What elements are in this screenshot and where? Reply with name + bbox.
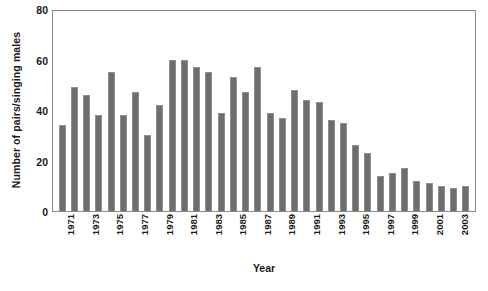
bar-series — [53, 11, 475, 211]
bar[interactable] — [156, 105, 163, 211]
bar-slot — [374, 11, 386, 211]
bar[interactable] — [218, 113, 225, 211]
bar-slot — [56, 11, 68, 211]
y-tick-label: 0 — [18, 206, 48, 218]
x-tick-slot — [166, 212, 178, 260]
bar-slot — [105, 11, 117, 211]
bar[interactable] — [108, 72, 115, 211]
bar-slot — [215, 11, 227, 211]
bar-slot — [435, 11, 447, 211]
x-tick-slot: 2001 — [424, 212, 436, 260]
bar-slot — [301, 11, 313, 211]
x-tick-slot: 1997 — [375, 212, 387, 260]
bar-slot — [117, 11, 129, 211]
bar[interactable] — [132, 92, 139, 211]
bar[interactable] — [389, 173, 396, 211]
y-axis-tick-labels: 020406080 — [18, 0, 48, 291]
bar[interactable] — [426, 183, 433, 211]
bar-slot — [142, 11, 154, 211]
bar[interactable] — [254, 67, 261, 211]
x-tick-slot — [116, 212, 128, 260]
bar[interactable] — [181, 60, 188, 212]
bar-slot — [68, 11, 80, 211]
bar-slot — [448, 11, 460, 211]
bar-slot — [288, 11, 300, 211]
bar-slot — [460, 11, 472, 211]
bar-slot — [325, 11, 337, 211]
bar-slot — [264, 11, 276, 211]
bar[interactable] — [279, 118, 286, 211]
bar-slot — [399, 11, 411, 211]
bar[interactable] — [205, 72, 212, 211]
bar[interactable] — [193, 67, 200, 211]
bar[interactable] — [352, 145, 359, 211]
bar[interactable] — [401, 168, 408, 211]
bar-slot — [423, 11, 435, 211]
bar[interactable] — [267, 113, 274, 211]
x-tick-slot: 1993 — [326, 212, 338, 260]
bar-slot — [80, 11, 92, 211]
bar[interactable] — [328, 120, 335, 211]
bar[interactable] — [144, 135, 151, 211]
bar-slot — [227, 11, 239, 211]
x-tick-slot: 1999 — [399, 212, 411, 260]
bar[interactable] — [364, 153, 371, 211]
x-tick-slot: 1981 — [178, 212, 190, 260]
x-tick-slot: 1975 — [104, 212, 116, 260]
x-tick-slot — [141, 212, 153, 260]
bar[interactable] — [95, 115, 102, 211]
bar-slot — [337, 11, 349, 211]
plot-area — [52, 10, 476, 212]
bar[interactable] — [316, 102, 323, 211]
bar[interactable] — [303, 100, 310, 211]
x-tick-slot: 1977 — [129, 212, 141, 260]
x-tick-slot — [412, 212, 424, 260]
bar[interactable] — [438, 186, 445, 211]
bar-slot — [276, 11, 288, 211]
x-tick-slot — [239, 212, 251, 260]
x-tick-slot — [67, 212, 79, 260]
x-tick-slot — [461, 212, 473, 260]
bar[interactable] — [462, 186, 469, 211]
bar[interactable] — [120, 115, 127, 211]
bar[interactable] — [83, 95, 90, 211]
bar-slot — [178, 11, 190, 211]
x-axis-tick-labels: 1971197319751977197919811983198519871989… — [52, 212, 476, 260]
bar-slot — [252, 11, 264, 211]
x-tick-slot — [215, 212, 227, 260]
x-tick-slot: 1983 — [203, 212, 215, 260]
bar-slot — [191, 11, 203, 211]
x-tick-slot — [92, 212, 104, 260]
x-tick-slot: 1991 — [301, 212, 313, 260]
y-tick-label: 80 — [18, 4, 48, 16]
bar[interactable] — [59, 125, 66, 211]
bar[interactable] — [169, 60, 176, 212]
x-tick-slot — [289, 212, 301, 260]
bar-slot — [362, 11, 374, 211]
x-tick-slot — [338, 212, 350, 260]
bar[interactable] — [230, 77, 237, 211]
bar[interactable] — [377, 176, 384, 211]
bar-slot — [350, 11, 362, 211]
bar-slot — [203, 11, 215, 211]
y-tick-label: 20 — [18, 156, 48, 168]
x-tick-slot: 1987 — [252, 212, 264, 260]
bar-slot — [313, 11, 325, 211]
bar-slot — [386, 11, 398, 211]
x-tick-slot — [362, 212, 374, 260]
x-axis-title: Year — [52, 262, 476, 274]
x-tick-slot: 1985 — [227, 212, 239, 260]
x-tick-slot: 2003 — [449, 212, 461, 260]
bar[interactable] — [340, 123, 347, 211]
bar[interactable] — [242, 92, 249, 211]
x-tick-slot — [190, 212, 202, 260]
bar-slot — [93, 11, 105, 211]
bar[interactable] — [71, 87, 78, 211]
bar[interactable] — [291, 90, 298, 211]
bar[interactable] — [413, 181, 420, 211]
x-tick-slot: 1973 — [80, 212, 92, 260]
bar-slot — [240, 11, 252, 211]
x-tick-slot — [387, 212, 399, 260]
bar[interactable] — [450, 188, 457, 211]
x-tick-slot: 1971 — [55, 212, 67, 260]
